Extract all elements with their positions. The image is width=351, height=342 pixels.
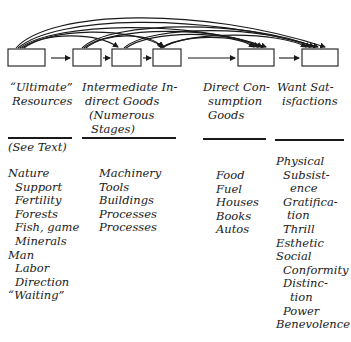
list-item: Social: [276, 250, 350, 264]
list-item: Support: [8, 181, 79, 195]
column-rule: [8, 137, 72, 139]
list-item: tion: [276, 291, 350, 305]
header-line: Goods: [203, 108, 270, 122]
list-item: Minerals: [8, 235, 79, 249]
header-line: sumption: [203, 94, 270, 108]
list-item: tion: [276, 209, 350, 223]
header-line: isfactions: [277, 94, 338, 108]
header-line: (Numerous: [82, 108, 177, 122]
list-item: Autos: [216, 223, 259, 237]
list-item: Esthetic: [276, 237, 350, 251]
list-item: Gratifica-: [276, 196, 350, 210]
column-header-ultimate-resources: “Ultimate” Resources: [10, 80, 73, 108]
list-item: Physical: [276, 155, 350, 169]
header-line: Want Sat-: [277, 80, 338, 94]
see-text-note: (See Text): [8, 140, 67, 154]
arrow-curved: [126, 34, 258, 48]
header-line: “Ultimate”: [10, 80, 73, 94]
list-item: Distinc-: [276, 277, 350, 291]
column-rule: [275, 139, 344, 141]
column-rule: [82, 137, 176, 139]
list-item: Subsist-: [276, 169, 350, 183]
list-item: Forests: [8, 208, 79, 222]
stage-box-intermediate-3: [153, 49, 181, 66]
stage-box-intermediate-2: [112, 49, 141, 66]
column-list-direct-consumption: Food Fuel Houses Books Autos: [216, 169, 259, 237]
list-item: Books: [216, 210, 259, 224]
arrow-curved: [86, 36, 162, 48]
stage-box-ultimate-resources: [8, 49, 45, 66]
list-item: Houses: [216, 196, 259, 210]
stage-box-intermediate-1: [73, 49, 101, 66]
list-item: Fuel: [216, 183, 259, 197]
list-item: Power: [276, 305, 350, 319]
header-line: direct Goods: [82, 94, 177, 108]
column-header-want-satisfactions: Want Sat- isfactions: [277, 80, 338, 108]
header-line: Intermediate In-: [82, 80, 177, 94]
list-item: Direction: [8, 276, 79, 290]
arrow-curved: [24, 36, 118, 48]
list-item: Food: [216, 169, 259, 183]
header-line: Resources: [10, 94, 73, 108]
list-item: Man: [8, 249, 79, 263]
stage-box-want-satisfactions: [302, 49, 338, 66]
list-item: Processes: [99, 208, 161, 222]
column-list-ultimate-resources: Nature Support Fertility Forests Fish, g…: [8, 167, 79, 303]
column-header-intermediate-goods: Intermediate In- direct Goods (Numerous …: [82, 80, 177, 136]
stage-box-direct-consumption: [238, 49, 274, 66]
list-item: Machinery: [99, 167, 161, 181]
list-item: ence: [276, 182, 350, 196]
list-item: Buildings: [99, 194, 161, 208]
list-item: Labor: [8, 262, 79, 276]
list-item: “Waiting”: [8, 289, 79, 303]
header-line: Direct Con-: [203, 80, 270, 94]
column-rule: [203, 138, 266, 140]
column-list-intermediate-goods: Machinery Tools Buildings Processes Proc…: [99, 167, 161, 235]
column-header-direct-consumption: Direct Con- sumption Goods: [203, 80, 270, 122]
list-item: Processes: [99, 221, 161, 235]
list-item: Conformity: [276, 264, 350, 278]
production-flow-diagram: [0, 0, 351, 72]
header-line: Stages): [82, 122, 177, 136]
list-item: Tools: [99, 181, 161, 195]
list-item: Benevolence: [276, 318, 350, 332]
list-item: Thrill: [276, 223, 350, 237]
list-item: Fish, game: [8, 221, 79, 235]
column-list-want-satisfactions: Physical Subsist- ence Gratifica- tion T…: [276, 155, 350, 332]
list-item: Nature: [8, 167, 79, 181]
list-item: Fertility: [8, 194, 79, 208]
